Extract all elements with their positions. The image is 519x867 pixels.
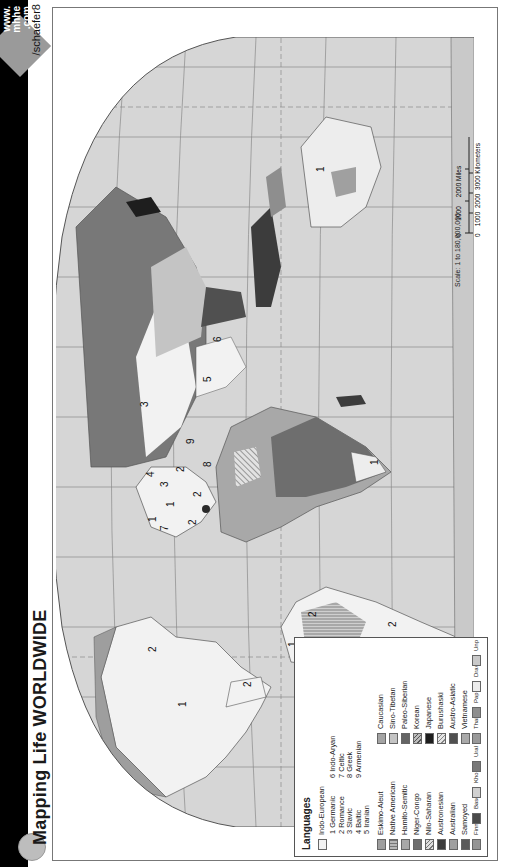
map-label: 1 xyxy=(177,701,188,707)
scale-miles: 0 1000 2000 Miles xyxy=(455,166,462,237)
indo-european-subgroups-1: 1 Germanic 2 Romance 3 Slavic 4 Baltic 5… xyxy=(329,796,372,834)
legend-item: Thai-Kadai xyxy=(471,718,482,744)
legend-item: Ural-Altaic xyxy=(471,746,482,772)
legend-item: Paleo-Siberian xyxy=(399,681,410,744)
legend-item: Khoisan xyxy=(471,772,482,798)
map-label: 1 xyxy=(165,501,176,507)
legend-item: Australian xyxy=(447,802,458,850)
legend-box: Languages Indo-European 1 Germanic 2 Rom… xyxy=(294,637,488,857)
swatch-icon xyxy=(472,761,481,772)
map-label: 1 xyxy=(147,516,158,522)
legend-item: Caucasian xyxy=(375,694,386,744)
legend-item: Hamito-Semitic xyxy=(399,785,410,850)
legend-item: Finno-Ugric xyxy=(471,824,482,850)
map-label: 1 xyxy=(369,459,380,465)
url-path: /schaefer8 xyxy=(30,4,42,55)
map-label: 8 xyxy=(202,461,213,467)
rotated-canvas: Mapping Life WORLDWIDE www. mhhe .com /s… xyxy=(0,0,519,867)
legend-item: Japanese xyxy=(423,697,434,744)
legend-item: Papuan xyxy=(471,692,482,718)
map-label: 5 xyxy=(202,376,213,382)
map-label: 2 xyxy=(387,621,398,627)
map-label: 9 xyxy=(185,438,196,444)
map-label: 2 xyxy=(307,611,318,617)
legend-item: Dravidian xyxy=(471,666,482,692)
legend-item: Austronesian xyxy=(435,792,446,850)
legend-item: Austro-Asiatic xyxy=(447,683,458,744)
scale-km: 0 1000 2000 3000 Kilometers xyxy=(474,143,481,237)
indo-european-subgroups-2: 6 Indo-Aryan 7 Celtic 8 Greek 9 Armenian xyxy=(329,736,363,778)
swatch-icon xyxy=(472,681,481,692)
legend-item: Nilo-Saharan xyxy=(423,792,434,850)
legend-item: Eskimo-Aleut xyxy=(375,791,386,850)
map-label: 7 xyxy=(159,525,170,531)
url-host: www. mhhe .com xyxy=(2,6,32,33)
legend-item: Korean xyxy=(411,705,422,744)
legend-item: Niger-Congo xyxy=(411,793,422,850)
map-label: 3 xyxy=(159,481,170,487)
map-label: 6 xyxy=(212,336,223,342)
map-label: 2 xyxy=(192,491,203,497)
swatch-icon xyxy=(472,813,481,824)
legend-item-indo-european: Indo-European xyxy=(317,786,327,850)
map-label: 2 xyxy=(147,646,158,652)
legend-item: Sino-Tibetan xyxy=(387,687,398,744)
swatch-icon xyxy=(472,839,481,850)
map-label: 1 xyxy=(315,166,326,172)
page-title: Mapping Life WORLDWIDE xyxy=(30,610,51,845)
swatch-icon xyxy=(472,787,481,798)
url-badge[interactable]: www. mhhe .com /schaefer8 xyxy=(0,0,58,72)
legend-item: Unpopulated Regions xyxy=(471,640,482,666)
legend-item: Basque xyxy=(471,798,482,824)
map-label: 3 xyxy=(139,401,150,407)
map-label: 2 xyxy=(175,466,186,472)
map-page: Mapping Life WORLDWIDE www. mhhe .com /s… xyxy=(0,0,519,867)
map-label: 4 xyxy=(145,471,156,477)
swatch-icon xyxy=(472,707,481,718)
legend-item: Vietnamese xyxy=(459,690,470,744)
legend-item: Native American xyxy=(387,781,398,850)
swatch-icon xyxy=(472,655,481,666)
map-label: 2 xyxy=(242,681,253,687)
legend-item: Samoyed xyxy=(459,804,470,850)
swatch-icon xyxy=(318,839,327,850)
map-label: 2 xyxy=(187,519,198,525)
legend-title: Languages xyxy=(301,638,312,850)
legend-item: Burushaski xyxy=(435,692,446,744)
header-band xyxy=(0,0,28,867)
swatch-icon xyxy=(472,733,481,744)
scale-bar: 0 1000 2000 Miles 0 1000 2000 3000 Kilom… xyxy=(455,97,489,237)
